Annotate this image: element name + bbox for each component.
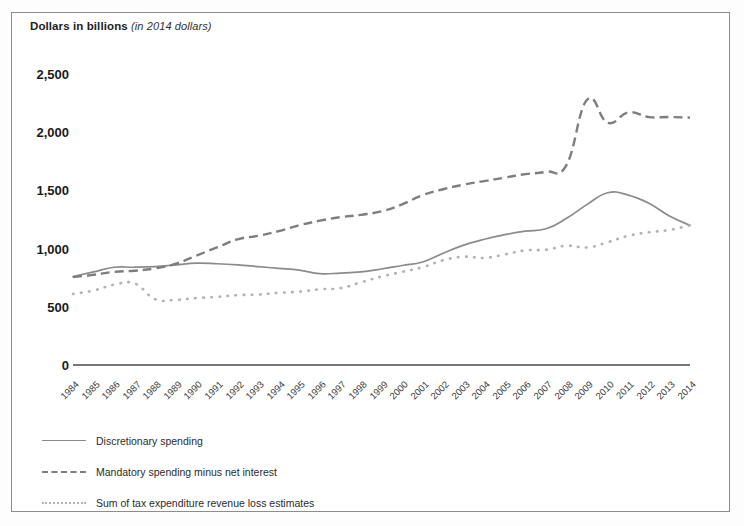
legend-marker-icon	[40, 465, 88, 479]
legend-marker-icon	[40, 496, 88, 510]
legend-item-label: Discretionary spending	[96, 435, 203, 447]
legend-marker-line	[42, 440, 86, 441]
y-tick-label: 500	[11, 299, 69, 314]
legend-marker-line	[42, 471, 86, 473]
series-group	[73, 98, 690, 301]
y-tick-label: 2,000	[11, 125, 69, 140]
legend-item[interactable]: Mandatory spending minus net interest	[40, 456, 600, 487]
legend-marker-icon	[40, 434, 88, 448]
series-line	[73, 192, 690, 277]
chart-legend: Discretionary spendingMandatory spending…	[40, 425, 600, 518]
legend-item-label: Mandatory spending minus net interest	[96, 466, 277, 478]
legend-item[interactable]: Discretionary spending	[40, 425, 600, 456]
legend-item-label: Sum of tax expenditure revenue loss esti…	[96, 497, 314, 509]
legend-item[interactable]: Sum of tax expenditure revenue loss esti…	[40, 487, 600, 518]
legend-marker-line	[42, 502, 86, 504]
y-tick-label: 1,000	[11, 241, 69, 256]
y-tick-label: 0	[11, 358, 69, 373]
chart-figure: Dollars in billions (in 2014 dollars) 05…	[0, 0, 744, 526]
series-line	[73, 225, 690, 301]
series-line	[73, 98, 690, 277]
y-tick-label: 1,500	[11, 183, 69, 198]
y-tick-label: 2,500	[11, 67, 69, 82]
